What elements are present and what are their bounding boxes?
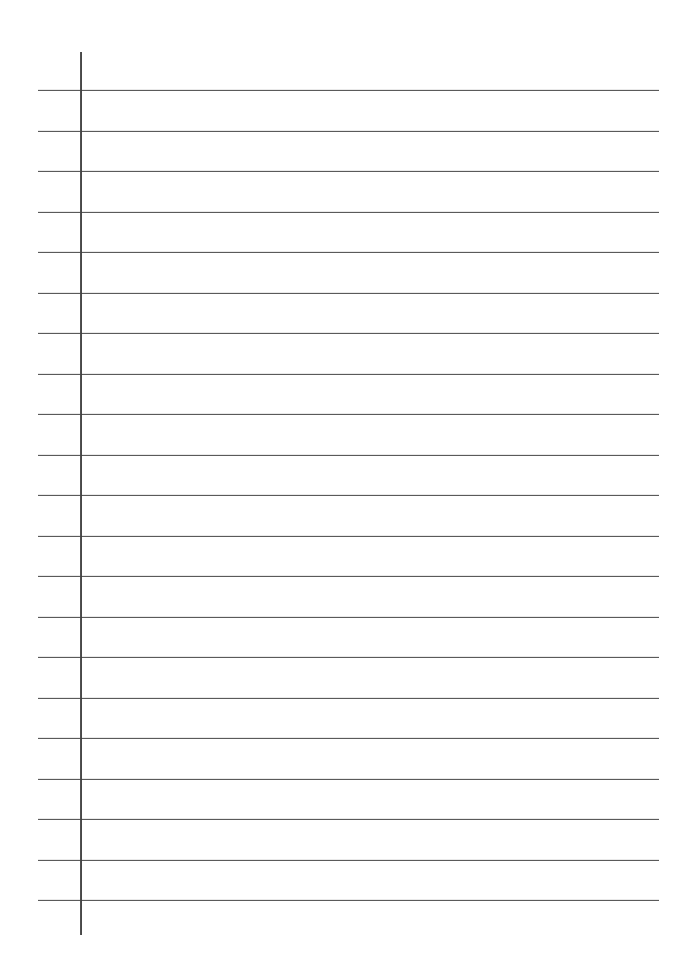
ruled-line	[38, 293, 659, 294]
ruled-line	[38, 698, 659, 699]
ruled-line	[38, 738, 659, 739]
ruled-line	[38, 252, 659, 253]
ruled-line	[38, 374, 659, 375]
ruled-line	[38, 212, 659, 213]
paper-sheet	[0, 0, 689, 973]
ruled-line	[38, 617, 659, 618]
ruled-line	[38, 414, 659, 415]
ruled-line	[38, 657, 659, 658]
ruled-line	[38, 333, 659, 334]
ruled-line	[38, 171, 659, 172]
margin-line	[80, 52, 82, 935]
ruled-line	[38, 576, 659, 577]
ruled-line	[38, 536, 659, 537]
ruled-line	[38, 860, 659, 861]
lined-paper-page	[0, 0, 689, 973]
ruled-line	[38, 495, 659, 496]
ruled-line	[38, 131, 659, 132]
ruled-line	[38, 900, 659, 901]
ruled-line	[38, 90, 659, 91]
ruled-line	[38, 455, 659, 456]
ruled-line	[38, 819, 659, 820]
ruled-line	[38, 779, 659, 780]
